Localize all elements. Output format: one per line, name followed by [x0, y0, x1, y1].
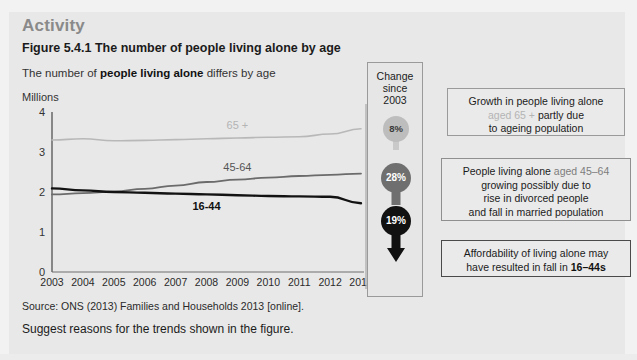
subtitle-text-pre: The number of: [22, 67, 100, 79]
y-axis-unit-label: Millions: [22, 91, 59, 103]
change-since-panel: Change since 2003 8% 28%: [367, 62, 423, 297]
chart-series-group: [52, 129, 361, 203]
callout-45-64-line-3: rise in divorced people: [448, 192, 624, 206]
subtitle-text-post: differs by age: [204, 67, 276, 79]
change-marker-16-44: 19%: [368, 206, 424, 236]
callout-16-44-line-2-pre: have resulted in fall in: [466, 261, 570, 273]
change-value-16-44: 19%: [381, 206, 411, 236]
change-heading-line-3: 2003: [368, 94, 422, 106]
y-tick-label: 4: [39, 106, 45, 118]
page-edge-bottom: [0, 354, 637, 360]
callout-45-64-age-tag: aged 45–64: [554, 165, 609, 177]
x-tick-label: 2012: [318, 276, 342, 288]
chart-svg: 01234 2003200420052006200720082009201020…: [16, 104, 368, 289]
change-value-65plus: 8%: [383, 116, 409, 142]
change-heading-line-1: Change: [368, 70, 422, 82]
x-tick-label: 2013: [349, 276, 368, 288]
change-bubble-45-64: 28%: [381, 163, 411, 193]
x-tick-label: 2011: [288, 276, 311, 288]
change-heading-line-2: since: [368, 82, 422, 94]
series-label-45-64: 45-64: [223, 161, 251, 173]
callout-16-44: Affordability of living alone may have r…: [441, 240, 631, 277]
callout-65plus: Growth in people living alone aged 65 + …: [447, 88, 625, 136]
x-axis-tick-labels: 2003200420052006200720082009201020112012…: [40, 276, 368, 288]
callout-45-64-line-1-pre: People living alone: [463, 165, 554, 177]
x-tick-label: 2005: [102, 276, 126, 288]
activity-heading: Activity: [22, 16, 85, 36]
figure-subtitle: The number of people living alone differ…: [22, 67, 276, 79]
series-label-16-44: 16-44: [192, 200, 221, 212]
x-tick-label: 2003: [40, 276, 64, 288]
x-tick-label: 2010: [257, 276, 281, 288]
change-markers: 8% 28% 19%: [368, 110, 422, 285]
series-label-65-: 65 +: [227, 119, 249, 131]
y-axis-tick-labels: 01234: [39, 106, 45, 278]
change-panel-heading: Change since 2003: [368, 70, 422, 106]
callout-65plus-line-3: to ageing population: [454, 122, 618, 136]
callout-65plus-age-tag: aged 65 +: [488, 109, 535, 121]
source-note: Source: ONS (2013) Families and Househol…: [22, 300, 304, 312]
change-marker-65plus: 8%: [368, 116, 424, 142]
change-bubble-65plus: 8%: [383, 116, 409, 142]
series-line-65-: [52, 129, 361, 141]
figure-title: Figure 5.4.1 The number of people living…: [22, 41, 341, 55]
x-tick-label: 2008: [195, 276, 219, 288]
callout-65plus-line-1: Growth in people living alone: [454, 95, 618, 109]
x-tick-label: 2007: [164, 276, 188, 288]
change-marker-45-64: 28%: [368, 163, 424, 193]
callout-45-64: People living alone aged 45–64 growing p…: [441, 158, 631, 221]
callout-65plus-line-2: aged 65 + partly due: [454, 109, 618, 123]
callout-45-64-line-4: and fall in married population: [448, 206, 624, 220]
x-tick-label: 2009: [226, 276, 250, 288]
callout-45-64-line-1: People living alone aged 45–64: [448, 165, 624, 179]
callout-16-44-line-2: have resulted in fall in 16–44s: [448, 261, 624, 275]
y-tick-label: 3: [39, 146, 45, 158]
x-tick-label: 2004: [71, 276, 95, 288]
callout-45-64-line-2: growing possibly due to: [448, 179, 624, 193]
activity-prompt: Suggest reasons for the trends shown in …: [22, 322, 294, 336]
y-tick-label: 2: [39, 186, 45, 198]
callout-16-44-age-tag: 16–44s: [571, 261, 606, 273]
callout-65plus-line-2-post: partly due: [535, 109, 584, 121]
chart-series-labels: 65 +45-6416-44: [192, 119, 251, 212]
activity-page: Activity Figure 5.4.1 The number of peop…: [0, 0, 637, 360]
subtitle-text-bold: people living alone: [100, 67, 204, 79]
page-edge-top: [0, 0, 637, 12]
y-tick-label: 1: [39, 226, 45, 238]
change-bubble-16-44: 19%: [381, 206, 411, 236]
line-chart: 01234 2003200420052006200720082009201020…: [16, 104, 368, 289]
page-edge-left: [0, 0, 9, 360]
callout-16-44-line-1: Affordability of living alone may: [448, 247, 624, 261]
x-tick-label: 2006: [133, 276, 157, 288]
change-value-45-64: 28%: [381, 163, 411, 193]
